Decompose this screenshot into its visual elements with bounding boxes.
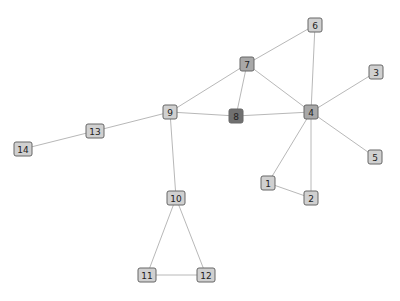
- edge-4-1: [268, 112, 311, 183]
- node-layer: 1234567891011121314: [14, 18, 383, 282]
- node-label: 11: [141, 271, 152, 281]
- edge-4-5: [311, 112, 375, 157]
- node-7[interactable]: 7: [240, 57, 254, 71]
- node-1[interactable]: 1: [261, 176, 275, 190]
- edge-10-11: [147, 198, 176, 275]
- edge-13-14: [23, 131, 95, 149]
- node-12[interactable]: 12: [197, 268, 215, 282]
- node-label: 5: [372, 153, 378, 163]
- edge-7-8: [236, 64, 247, 116]
- edge-layer: [23, 25, 376, 275]
- node-label: 9: [167, 108, 173, 118]
- node-label: 4: [308, 108, 314, 118]
- node-label: 7: [244, 60, 250, 70]
- node-label: 14: [17, 145, 29, 155]
- edge-6-7: [247, 25, 315, 64]
- node-label: 12: [200, 271, 211, 281]
- edge-7-9: [170, 64, 247, 112]
- node-3[interactable]: 3: [369, 65, 383, 79]
- node-14[interactable]: 14: [14, 142, 32, 156]
- edge-9-8: [170, 112, 236, 116]
- edge-8-4: [236, 112, 311, 116]
- edge-6-4: [311, 25, 315, 112]
- node-label: 13: [89, 127, 100, 137]
- node-label: 1: [265, 179, 271, 189]
- node-9[interactable]: 9: [163, 105, 177, 119]
- edge-9-10: [170, 112, 176, 198]
- node-label: 10: [170, 194, 182, 204]
- edge-9-13: [95, 112, 170, 131]
- edge-10-12: [176, 198, 206, 275]
- node-label: 8: [233, 112, 239, 122]
- node-5[interactable]: 5: [368, 150, 382, 164]
- node-6[interactable]: 6: [308, 18, 322, 32]
- node-4[interactable]: 4: [304, 105, 318, 119]
- node-2[interactable]: 2: [304, 191, 318, 205]
- network-graph: 1234567891011121314: [0, 0, 400, 301]
- node-label: 2: [308, 194, 314, 204]
- node-11[interactable]: 11: [138, 268, 156, 282]
- node-8[interactable]: 8: [229, 109, 243, 123]
- node-10[interactable]: 10: [167, 191, 185, 205]
- node-label: 3: [373, 68, 379, 78]
- node-13[interactable]: 13: [86, 124, 104, 138]
- edge-7-4: [247, 64, 311, 112]
- node-label: 6: [312, 21, 318, 31]
- edge-4-3: [311, 72, 376, 112]
